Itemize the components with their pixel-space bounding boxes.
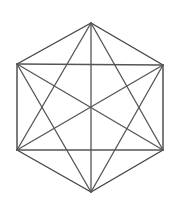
hexagon-complete-graph-diagram xyxy=(0,0,178,197)
edge-group xyxy=(17,23,163,192)
diagonal-bottom-to-upper-left xyxy=(17,64,91,192)
hexagon-side-lower-right-to-bottom xyxy=(91,150,163,192)
diagonal-upper-right-to-upper-left xyxy=(17,64,163,65)
hexagon-side-bottom-to-lower-left xyxy=(17,150,91,192)
hexagon-side-upper-left-to-top xyxy=(17,23,91,64)
hexagon-side-top-to-upper-right xyxy=(91,23,163,65)
